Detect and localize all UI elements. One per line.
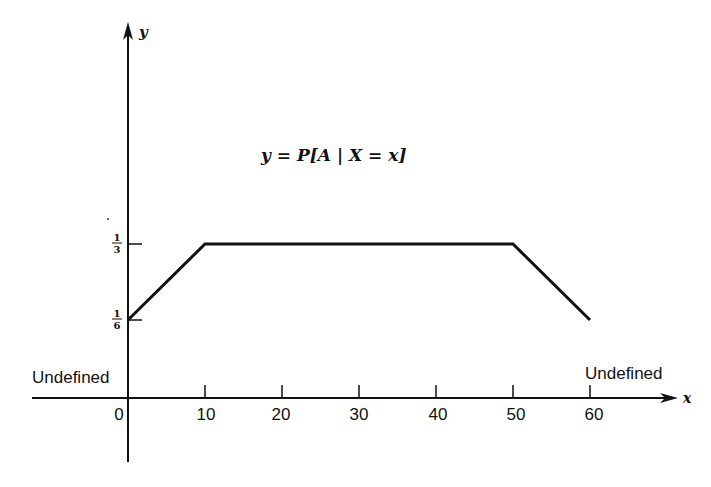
x-tick-label-10: 10 [197,405,216,424]
x-ticks [205,385,590,398]
svg-text:1: 1 [114,232,121,243]
y-tick-label-sixth: 1 6 [112,308,122,331]
undefined-left-label: Undefined [32,368,110,387]
undefined-right-label: Undefined [585,364,663,383]
x-tick-label-20: 20 [272,405,291,424]
svg-text:3: 3 [114,244,121,255]
x-tick-label-40: 40 [429,405,448,424]
y-axis-label: y [138,23,149,41]
x-tick-label-0: 0 [114,405,123,424]
y-tick-label-third: 1 3 [112,232,122,255]
svg-text:1: 1 [114,308,121,319]
svg-text:6: 6 [114,320,121,331]
scan-speck [107,218,109,220]
data-line [128,244,590,320]
equation-label: y = P[A | X = x] [260,145,406,165]
x-tick-label-30: 30 [350,405,369,424]
x-axis-label: x [682,390,692,406]
x-tick-label-50: 50 [507,405,526,424]
chart-canvas: 0 10 20 30 40 50 60 1 3 1 6 y x y = P[A … [0,0,711,487]
x-tick-labels: 0 10 20 30 40 50 60 [114,405,603,424]
x-tick-label-60: 60 [585,405,604,424]
